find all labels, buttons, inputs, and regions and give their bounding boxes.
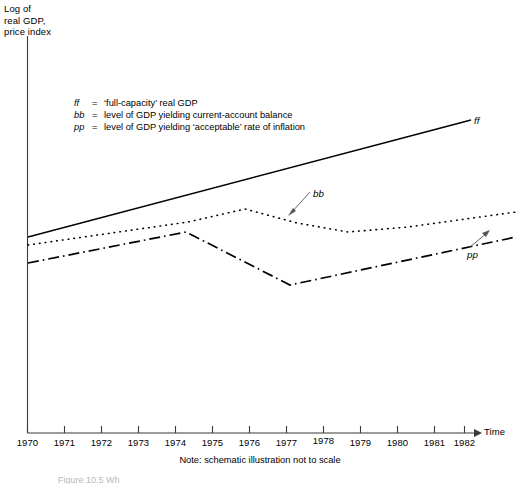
pp-annotation-arrow-icon	[470, 230, 490, 247]
legend-item-ff: ff = ‘full-capacity’ real GDP	[74, 98, 305, 110]
legend-key-ff: ff	[74, 98, 92, 110]
legend: ff = ‘full-capacity’ real GDP bb = level…	[74, 98, 305, 133]
x-tick-label-1975: 1975	[196, 437, 230, 448]
x-tick-label-1978: 1978	[307, 435, 341, 446]
x-tick-label-1980: 1980	[381, 437, 415, 448]
x-tick-label-1973: 1973	[122, 437, 156, 448]
curve-label-bb: bb	[313, 188, 324, 199]
x-tick-label-1970: 1970	[11, 437, 45, 448]
legend-equals-ff: =	[92, 98, 104, 110]
figure-container: Log of real GDP, price index Time 1970 1…	[0, 0, 520, 484]
legend-key-bb: bb	[74, 110, 92, 122]
y-axis-label: Log of real GDP, price index	[4, 3, 51, 38]
chart-note: Note: schematic illustration not to scal…	[0, 455, 520, 465]
legend-text-pp: level of GDP yielding ‘acceptable’ rate …	[104, 122, 305, 134]
x-axis-ticks	[28, 426, 465, 433]
x-tick-label-1977: 1977	[270, 437, 304, 448]
legend-equals-bb: =	[92, 110, 104, 122]
series-line-bb	[28, 209, 516, 245]
bb-annotation-arrow-icon	[288, 192, 310, 216]
x-axis-label: Time	[484, 426, 505, 438]
chart-canvas	[0, 0, 520, 484]
legend-item-bb: bb = level of GDP yielding current-accou…	[74, 110, 305, 122]
x-tick-label-1974: 1974	[159, 437, 193, 448]
x-tick-label-1972: 1972	[85, 437, 119, 448]
legend-item-pp: pp = level of GDP yielding ‘acceptable’ …	[74, 122, 305, 134]
legend-text-ff: ‘full-capacity’ real GDP	[104, 98, 198, 110]
x-axis-arrow-icon	[474, 429, 482, 437]
series-line-ff	[28, 120, 471, 237]
curve-label-pp: pp	[467, 249, 478, 260]
x-tick-label-1976: 1976	[233, 437, 267, 448]
legend-key-pp: pp	[74, 122, 92, 134]
figure-caption: Figure 10.5 Wh	[58, 475, 120, 484]
x-tick-label-1979: 1979	[344, 437, 378, 448]
legend-text-bb: level of GDP yielding current-account ba…	[104, 110, 292, 122]
x-tick-label-1971: 1971	[48, 437, 82, 448]
curve-label-ff: ff	[474, 115, 479, 126]
series-line-pp	[28, 232, 516, 285]
x-tick-label-1981: 1981	[418, 437, 452, 448]
legend-equals-pp: =	[92, 122, 104, 134]
x-tick-label-1982: 1982	[448, 437, 482, 448]
